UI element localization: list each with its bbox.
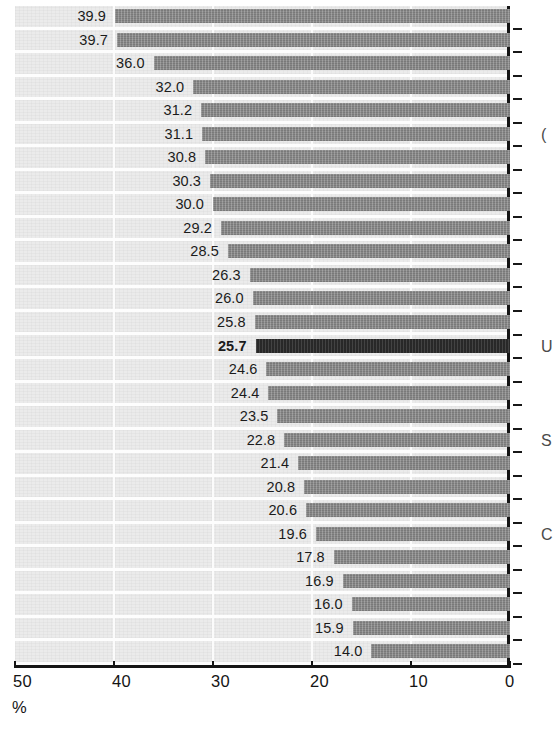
bar bbox=[353, 621, 510, 635]
axis-label-30: 30 bbox=[211, 672, 230, 691]
axis-tick-20 bbox=[311, 661, 313, 668]
axis-label-0: 0 bbox=[505, 672, 514, 691]
row-tick bbox=[513, 51, 522, 53]
bar-row: 25.7 bbox=[15, 336, 507, 357]
bar-value-label: 32.0 bbox=[156, 77, 185, 98]
bar-row: 20.8 bbox=[15, 477, 507, 498]
row-tick bbox=[513, 334, 522, 336]
axis-tick-50 bbox=[14, 661, 16, 668]
bar-value-label: 19.6 bbox=[278, 524, 307, 545]
category-edge-label: S bbox=[541, 432, 560, 450]
bar-highlighted bbox=[256, 339, 510, 353]
axis-tick-30 bbox=[212, 661, 214, 668]
bar-row: 23.5 bbox=[15, 406, 507, 427]
bar-value-label: 36.0 bbox=[116, 53, 145, 74]
row-tick bbox=[513, 239, 522, 241]
axis-label-10: 10 bbox=[409, 672, 428, 691]
bar-value-label: 31.1 bbox=[165, 124, 194, 145]
bar-row: 26.0 bbox=[15, 288, 507, 309]
bar-row: 32.0 bbox=[15, 77, 507, 98]
bar bbox=[306, 503, 510, 517]
row-tick bbox=[513, 428, 522, 430]
row-tick bbox=[513, 286, 522, 288]
x-axis-unit-label: % bbox=[12, 698, 27, 717]
bar-row: 17.8 bbox=[15, 547, 507, 568]
axis-label-20: 20 bbox=[310, 672, 329, 691]
bar-value-label: 39.7 bbox=[79, 30, 108, 51]
bar bbox=[255, 315, 510, 329]
row-tick bbox=[513, 592, 522, 594]
bar-row: 16.9 bbox=[15, 571, 507, 592]
axis-label-40: 40 bbox=[112, 672, 131, 691]
row-tick bbox=[513, 145, 522, 147]
bar bbox=[304, 480, 510, 494]
bar-value-label: 22.8 bbox=[247, 430, 276, 451]
bar-value-label: 30.8 bbox=[167, 147, 196, 168]
row-tick bbox=[513, 216, 522, 218]
row-tick bbox=[513, 616, 522, 618]
row-tick bbox=[513, 122, 522, 124]
bar bbox=[205, 150, 510, 164]
bar-row: 21.4 bbox=[15, 453, 507, 474]
bar bbox=[266, 362, 510, 376]
bar-row: 30.0 bbox=[15, 194, 507, 215]
bar-value-label: 17.8 bbox=[296, 547, 325, 568]
bar bbox=[268, 386, 510, 400]
bar-value-label: 26.3 bbox=[212, 265, 241, 286]
plot-area: 39.939.736.032.031.231.130.830.330.029.2… bbox=[15, 6, 510, 665]
bar-value-label: 30.3 bbox=[172, 171, 201, 192]
category-edge-label: C bbox=[541, 526, 560, 544]
bar-value-label: 21.4 bbox=[261, 453, 290, 474]
row-tick bbox=[513, 545, 522, 547]
bar-row: 14.0 bbox=[15, 641, 507, 662]
row-tick bbox=[513, 451, 522, 453]
category-edge-label: U bbox=[541, 338, 560, 356]
bar-row: 22.8 bbox=[15, 430, 507, 451]
row-tick bbox=[513, 475, 522, 477]
row-tick bbox=[513, 169, 522, 171]
bar-row: 31.1 bbox=[15, 124, 507, 145]
bar-value-label: 14.0 bbox=[334, 641, 363, 662]
bar bbox=[316, 527, 510, 541]
row-tick bbox=[513, 263, 522, 265]
category-edge-label: ( bbox=[541, 126, 560, 144]
bar bbox=[210, 174, 510, 188]
bar-value-label: 28.5 bbox=[190, 241, 219, 262]
bar-row: 24.6 bbox=[15, 359, 507, 380]
axis-tick-10 bbox=[410, 661, 412, 668]
row-tick bbox=[513, 357, 522, 359]
row-tick bbox=[513, 522, 522, 524]
bar bbox=[154, 56, 510, 70]
bar bbox=[250, 268, 510, 282]
bar-value-label: 24.6 bbox=[229, 359, 258, 380]
bar-value-label: 16.0 bbox=[314, 594, 343, 615]
bar-value-label: 20.8 bbox=[266, 477, 295, 498]
bar-row: 16.0 bbox=[15, 594, 507, 615]
bar-row: 20.6 bbox=[15, 500, 507, 521]
bar-row: 15.9 bbox=[15, 618, 507, 639]
row-tick bbox=[513, 663, 522, 665]
bar-row: 29.2 bbox=[15, 218, 507, 239]
bar-row: 39.9 bbox=[15, 6, 507, 27]
bar bbox=[298, 456, 510, 470]
bar bbox=[343, 574, 510, 588]
bar bbox=[284, 433, 510, 447]
bar-value-label: 30.0 bbox=[175, 194, 204, 215]
bar-value-label: 15.9 bbox=[315, 618, 344, 639]
bar bbox=[253, 291, 510, 305]
bar bbox=[371, 644, 510, 658]
bar-value-label: 29.2 bbox=[183, 218, 212, 239]
bar bbox=[213, 197, 510, 211]
bar bbox=[277, 409, 510, 423]
bar-value-label: 25.7 bbox=[218, 336, 247, 357]
bar-row: 24.4 bbox=[15, 383, 507, 404]
bar-value-label: 24.4 bbox=[231, 383, 260, 404]
bar-value-label: 26.0 bbox=[215, 288, 244, 309]
axis-label-50: 50 bbox=[13, 672, 32, 691]
bar bbox=[228, 244, 510, 258]
bar-value-label: 23.5 bbox=[240, 406, 269, 427]
row-tick bbox=[513, 75, 522, 77]
bar bbox=[202, 127, 510, 141]
row-tick bbox=[513, 192, 522, 194]
row-tick bbox=[513, 498, 522, 500]
